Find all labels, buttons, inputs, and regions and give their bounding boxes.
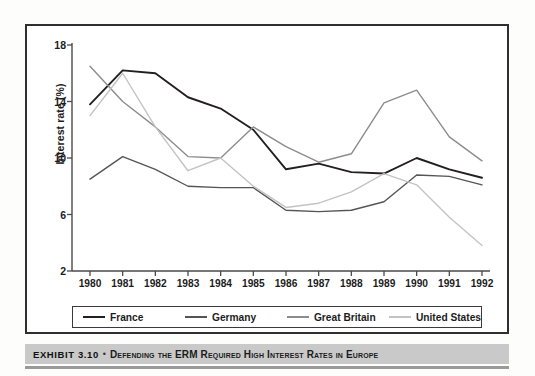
chart-legend: FranceGermanyGreat BritainUnited States <box>72 306 482 328</box>
y-tick-10: 10 <box>40 152 66 164</box>
legend-item-united-states[interactable]: United States <box>379 312 481 323</box>
exhibit-caption-bar: EXHIBIT 3.10 • Defending the ERM Require… <box>25 344 509 364</box>
y-tick-18: 18 <box>40 39 66 51</box>
caption-underline-rule <box>25 366 509 369</box>
exhibit-title: Defending the ERM Required High Interest… <box>110 349 378 360</box>
exhibit-figure: Interest rate (%) 26101418 1980198119821… <box>0 0 535 376</box>
legend-item-germany[interactable]: Germany <box>175 312 277 323</box>
x-tick-1992: 1992 <box>462 278 502 289</box>
y-tick-14: 14 <box>40 96 66 108</box>
legend-swatch-icon <box>287 316 309 318</box>
legend-label: Germany <box>212 312 256 323</box>
legend-swatch-icon <box>185 316 207 318</box>
legend-label: France <box>110 312 143 323</box>
legend-swatch-icon <box>83 316 105 318</box>
y-tick-6: 6 <box>40 209 66 221</box>
legend-label: United States <box>416 312 481 323</box>
exhibit-number: EXHIBIT 3.10 <box>33 349 99 360</box>
y-axis-tick-labels: 26101418 <box>36 0 66 376</box>
legend-item-great-britain[interactable]: Great Britain <box>277 312 379 323</box>
legend-swatch-icon <box>389 316 411 318</box>
y-tick-2: 2 <box>40 265 66 277</box>
legend-item-france[interactable]: France <box>73 312 175 323</box>
caption-separator-dot: • <box>103 349 106 359</box>
legend-label: Great Britain <box>314 312 376 323</box>
